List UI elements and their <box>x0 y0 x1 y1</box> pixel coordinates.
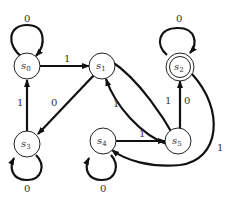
state-s3: s3 <box>14 131 40 157</box>
label-s5-s2: 0 <box>184 95 190 106</box>
label-s1-s3: 0 <box>51 97 57 108</box>
state-s5: s5 <box>165 128 191 154</box>
label-s4-loop: 0 <box>100 183 106 194</box>
label-s2-loop: 0 <box>176 13 182 24</box>
edge-s4-loop <box>87 155 116 180</box>
edge-s1-s3 <box>38 74 95 134</box>
label-s0-s1: 1 <box>64 53 70 64</box>
label-s3-loop: 0 <box>24 183 30 194</box>
label-s0-loop: 0 <box>24 13 30 24</box>
edge-s3-loop <box>12 155 42 180</box>
label-s2-s4: 1 <box>217 142 223 153</box>
state-s4: s4 <box>90 128 116 154</box>
state-diagram: 0 1 0 1 1 0 0 1 1 0 0 1 s0 s1 s2 s3 s4 s… <box>0 0 248 197</box>
state-s2-accepting: s2 <box>166 53 194 81</box>
label-s5-s1: 1 <box>113 98 119 109</box>
label-s1-s5: 1 <box>165 95 171 106</box>
state-s1: s1 <box>89 53 115 79</box>
edge-s2-loop <box>160 28 195 55</box>
label-s3-s0: 1 <box>17 97 23 108</box>
edge-s0-loop <box>11 25 42 57</box>
label-s4-s5: 1 <box>139 128 145 139</box>
state-s0: s0 <box>14 53 40 79</box>
